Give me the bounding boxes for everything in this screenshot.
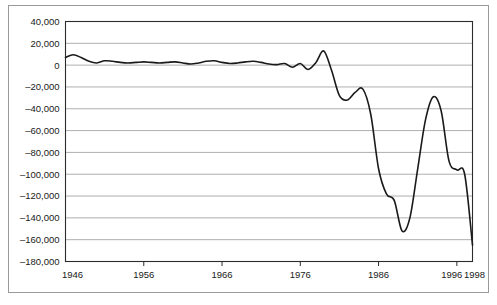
line-chart: 40,00020,0000–20,000–40,000–60,000–80,00… [0,0,497,305]
x-axis-tick-label: 1976 [290,269,311,280]
x-axis-tick-label: 1946 [62,269,83,280]
y-axis-tick-label: –80,000 [25,147,59,158]
y-axis-tick-label: –160,000 [20,234,60,245]
y-axis-tick-label: –40,000 [25,103,59,114]
y-axis-tick-label: –60,000 [25,125,59,136]
y-axis-tick-label: –100,000 [20,169,60,180]
chart-figure: 40,00020,0000–20,000–40,000–60,000–80,00… [0,0,497,305]
y-axis-tick-label: –20,000 [25,81,59,92]
y-axis-tick-label: –140,000 [20,212,60,223]
y-axis-tick-label: 0 [54,60,59,71]
y-axis-tick-label: –180,000 [20,256,60,267]
x-axis-tick-label: 1966 [211,269,232,280]
data-series-line [66,51,473,245]
x-axis-tick-label: 1998 [464,269,485,280]
x-axis-tick-label: 1986 [368,269,389,280]
x-axis-tick-label: 1996 [441,269,462,280]
plot-area-border [66,22,473,262]
y-axis-tick-label: –120,000 [20,190,60,201]
x-axis-tick-label: 1956 [133,269,154,280]
y-axis-tick-label: 40,000 [30,16,59,27]
y-axis-tick-label: 20,000 [30,38,59,49]
